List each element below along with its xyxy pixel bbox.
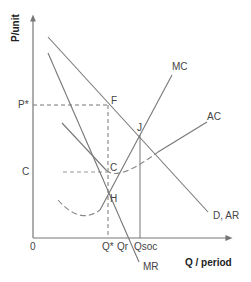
- c-tick: C: [22, 166, 29, 177]
- point-c: C: [110, 162, 117, 173]
- qr-tick: Qr: [117, 241, 129, 252]
- q-star-tick: Q*: [102, 241, 114, 252]
- point-f: F: [111, 95, 117, 106]
- mc-curve: [58, 200, 100, 216]
- y-axis-label: P/unit: [10, 14, 21, 42]
- mr-curve: [48, 53, 139, 262]
- x-axis-label: Q / period: [185, 257, 232, 268]
- mr-label: MR: [143, 261, 159, 272]
- point-j: J: [137, 122, 142, 133]
- qsoc-tick: Qsoc: [134, 241, 157, 252]
- point-h: H: [110, 193, 117, 204]
- p-star-tick: P*: [18, 99, 29, 110]
- origin-label: 0: [30, 241, 36, 252]
- mc-label: MC: [172, 61, 188, 72]
- demand-label: D, AR: [213, 210, 239, 221]
- economics-diagram: P/unit Q / period 0 MC AC D, AR MR F J C…: [0, 0, 251, 282]
- ac-curve: [62, 123, 106, 170]
- ac-label: AC: [207, 111, 221, 122]
